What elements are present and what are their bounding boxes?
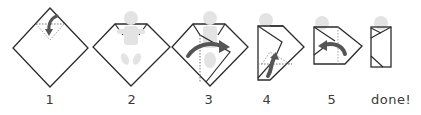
done-illustration (371, 16, 391, 67)
done-label: done! (371, 92, 411, 107)
step-3-label: 3 (189, 92, 229, 107)
folded-blanket (258, 26, 304, 80)
wrap-right-arrow-icon (188, 44, 222, 56)
step-1-label: 1 (30, 92, 70, 107)
step-4-illustration (258, 13, 304, 80)
step-5-illustration (314, 16, 362, 64)
fold-down-arrow-icon (49, 16, 57, 31)
step-3-illustration (172, 11, 248, 86)
step-5-label: 5 (312, 92, 352, 107)
step-4-label: 4 (247, 92, 287, 107)
step-2-label: 2 (112, 92, 152, 107)
fold-up-arrow-icon (268, 58, 274, 76)
step-2-illustration (93, 11, 170, 86)
step-1-illustration (13, 8, 88, 87)
wrap-left-arrow-icon (324, 44, 345, 54)
swaddle-diagram: 1 2 3 4 5 done! (0, 0, 421, 115)
baby-icon (117, 11, 145, 66)
